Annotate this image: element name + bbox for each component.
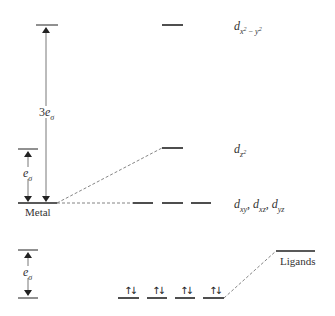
sigma-subscript: σ [50, 113, 54, 122]
sup-2: 2 [244, 26, 247, 32]
dashed-bonding-to-ligands [224, 251, 276, 298]
sup-2: 2 [243, 149, 246, 155]
spin-pair-icon: ↑↓ [152, 286, 163, 296]
sub-xy: xy [240, 205, 247, 214]
sigma-subscript: σ [28, 174, 32, 183]
spin-pair-icon: ↑↓ [124, 286, 135, 296]
spin-pair-icon: ↑↓ [180, 286, 191, 296]
label-e-sigma-lower: eσ [22, 266, 33, 278]
label-3e-sigma: 3eσ [38, 106, 55, 118]
label-t2g: dxy, dxz, dyz [234, 198, 284, 210]
dashed-metal-to-dz2 [57, 148, 162, 203]
label-ligands: Ligands [280, 256, 315, 267]
label-dz2: dz2 [234, 143, 246, 155]
label-e-sigma-upper: eσ [22, 167, 33, 179]
sub-yz: yz [278, 205, 285, 214]
label-metal: Metal [25, 207, 51, 218]
spin-pair-icon: ↑↓ [209, 286, 220, 296]
energy-diagram-canvas [0, 0, 335, 316]
sub-xz: xz [259, 205, 266, 214]
d-symbol: d [272, 197, 278, 211]
sup-2: 2 [259, 26, 262, 32]
label-dx2-y2: dx2 − y2 [234, 20, 262, 32]
sigma-subscript: σ [28, 273, 32, 282]
sub-minus: − [247, 27, 256, 36]
